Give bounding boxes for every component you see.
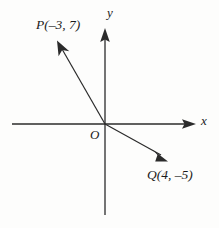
- origin-label: O: [90, 128, 99, 141]
- x-axis-label: x: [201, 114, 207, 127]
- coordinate-plane-figure: P(–3, 7) Q(4, –5) O x y: [0, 0, 219, 228]
- ray-oq-line: [105, 124, 161, 155]
- point-p-label: P(–3, 7): [36, 18, 80, 32]
- y-axis-label: y: [107, 6, 113, 19]
- ray-op-line: [62, 49, 105, 124]
- point-q-label: Q(4, –5): [147, 168, 193, 182]
- ray-op-arrowhead-icon: [57, 41, 69, 57]
- axes-and-rays-svg: [0, 0, 219, 228]
- ray-oq-arrowhead-icon: [153, 150, 168, 162]
